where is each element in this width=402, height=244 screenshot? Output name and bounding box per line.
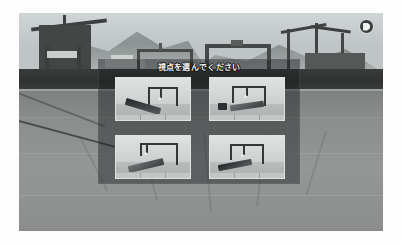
view-selection-dialog: 視点を選んでください 船体斜め前方からのガントリークレーン xyxy=(98,59,300,184)
left-crane-leg-rear xyxy=(77,45,81,71)
play-badge-glyph xyxy=(363,23,370,31)
ground-seam-far xyxy=(19,195,383,196)
view-thumbnail-3[interactable]: クレーン真下の船体側面 xyxy=(115,135,191,179)
thumb3-gantry-leg-right xyxy=(176,143,178,165)
thumb2-cargo-container xyxy=(218,103,227,110)
thumb4-gantry-leg-right xyxy=(262,144,264,164)
thumb3-sky xyxy=(116,136,190,162)
thumb4-sky xyxy=(210,136,284,162)
mid-gantry-trolley xyxy=(159,43,162,51)
simulator-3d-scene: 視点を選んでください 船体斜め前方からのガントリークレーン xyxy=(19,13,383,231)
view-thumbnail-grid: 船体斜め前方からのガントリークレーン 岸壁側からのガントリークレーンと貨物 xyxy=(115,77,285,179)
screenshot-root: 視点を選んでください 船体斜め前方からのガントリークレーン xyxy=(0,0,402,244)
thumb4-hook-block xyxy=(241,154,244,157)
view-thumbnail-2[interactable]: 岸壁側からのガントリークレーンと貨物 xyxy=(209,77,285,121)
view-thumbnail-1[interactable]: 船体斜め前方からのガントリークレーン xyxy=(115,77,191,121)
thumb1-hook-block xyxy=(158,97,161,100)
thumb3-gantry-leg-left xyxy=(140,143,142,156)
thumb1-gantry-beam xyxy=(148,87,178,89)
play-badge-icon[interactable] xyxy=(359,19,374,34)
thumb2-gantry-leg-left xyxy=(232,86,234,103)
mid-gantry-beam xyxy=(137,49,193,52)
view-thumbnail-4[interactable]: 後方からのガントリークレーン全景 xyxy=(209,135,285,179)
thumb1-foreground-strip xyxy=(116,114,190,120)
thumb1-gantry-leg-right xyxy=(176,87,178,106)
thumb4-gantry-leg-left xyxy=(230,144,232,160)
thumb3-foreground-strip xyxy=(116,172,190,178)
thumb2-gantry-beam xyxy=(232,86,266,88)
thumb4-foreground-strip xyxy=(210,172,284,178)
left-crane-panel xyxy=(47,51,77,58)
left-crane-leg-front xyxy=(45,45,49,71)
thumb2-foreground-strip xyxy=(210,114,284,120)
center-gantry-cabin xyxy=(231,40,243,46)
dialog-title: 視点を選んでください xyxy=(99,63,299,73)
thumb3-hook-block xyxy=(144,152,147,155)
thumb2-hook-block xyxy=(244,95,247,98)
thumb1-gantry-leg-left xyxy=(148,87,150,106)
thumb2-gantry-leg-right xyxy=(264,86,266,106)
thumb4-gantry-beam xyxy=(230,144,264,146)
